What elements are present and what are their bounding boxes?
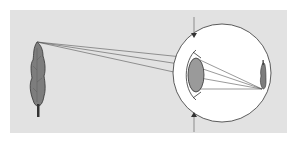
diagram-canvas [0, 0, 295, 145]
lens [188, 58, 204, 92]
tree-trunk [37, 104, 40, 117]
eye-optics-diagram [0, 0, 295, 145]
